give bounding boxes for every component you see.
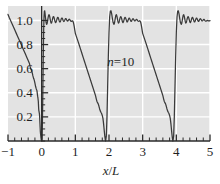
x-axis-title: x/L xyxy=(102,163,120,178)
y-tick-label: 0.2 xyxy=(16,109,32,124)
y-tick-label: 1.0 xyxy=(16,13,32,28)
y-tick-label: 0.4 xyxy=(16,85,33,100)
x-tick-label: 0 xyxy=(38,144,45,159)
x-tick-label: 4 xyxy=(173,144,180,159)
y-tick-label: 0.8 xyxy=(16,37,32,52)
x-tick-label: 3 xyxy=(139,144,146,159)
x-tick-label: 1 xyxy=(72,144,79,159)
x-tick-label: 2 xyxy=(106,144,113,159)
annotation-n-value: n=10 xyxy=(107,54,134,69)
chart-figure: −1012345x/L0.20.40.60.81.0n=10 xyxy=(0,0,220,184)
x-tick-label: 5 xyxy=(207,144,214,159)
x-tick-label: −1 xyxy=(1,144,15,159)
y-tick-label: 0.6 xyxy=(16,61,33,76)
